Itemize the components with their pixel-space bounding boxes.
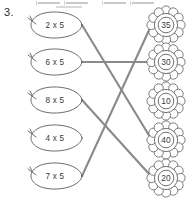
matching-diagram: 2 x 5 6 x 5 8 x 5 4 x 5 7 x 5 35 30: [0, 0, 188, 198]
flower-label: 20: [161, 173, 171, 183]
flower-label: 40: [161, 135, 171, 145]
leaf-item-3[interactable]: 8 x 5: [28, 87, 82, 113]
flower-item-5[interactable]: 20: [147, 159, 185, 197]
flower-label: 35: [161, 20, 171, 30]
worksheet-canvas: 3.: [0, 0, 188, 198]
leaf-item-5[interactable]: 7 x 5: [28, 163, 82, 189]
flower-item-1[interactable]: 35: [147, 6, 185, 44]
leaf-item-4[interactable]: 4 x 5: [28, 125, 82, 151]
leaf-label: 8 x 5: [46, 96, 65, 105]
leaf-item-1[interactable]: 2 x 5: [28, 12, 82, 38]
flower-item-3[interactable]: 10: [147, 82, 185, 120]
flower-label: 10: [161, 96, 171, 106]
connection-line[interactable]: [82, 100, 150, 175]
leaf-label: 7 x 5: [46, 172, 65, 181]
flower-item-2[interactable]: 30: [147, 43, 185, 81]
leaf-item-2[interactable]: 6 x 5: [28, 49, 82, 75]
connection-line[interactable]: [82, 28, 150, 176]
flower-label: 30: [161, 57, 171, 67]
leaf-label: 4 x 5: [46, 134, 65, 143]
leaf-label: 2 x 5: [46, 21, 65, 30]
connection-line[interactable]: [82, 25, 150, 137]
flower-item-4[interactable]: 40: [147, 121, 185, 159]
connection-lines: [82, 25, 150, 176]
leaf-label: 6 x 5: [46, 58, 65, 67]
